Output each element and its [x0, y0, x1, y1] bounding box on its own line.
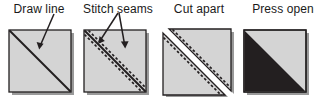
panel-draw-line: Draw line	[0, 0, 78, 102]
panel-stitch-seams: Stitch seams	[78, 0, 158, 102]
figure-press-open	[240, 0, 326, 102]
panel-press-open: Press open	[240, 0, 326, 102]
panel-cut-apart: Cut apart	[158, 0, 240, 102]
figure-stitch-seams	[78, 0, 158, 102]
figure-draw-line	[0, 0, 78, 102]
figure-cut-apart	[158, 0, 240, 102]
illustration-root: Draw line Stitch seams	[0, 0, 326, 102]
